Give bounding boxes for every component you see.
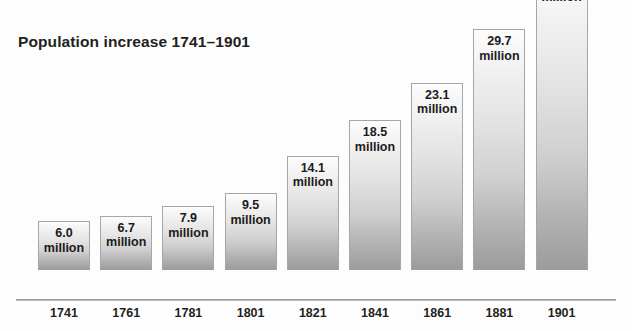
bar-1781[interactable]: 7.9million <box>162 206 214 270</box>
x-axis-label-1861: 1861 <box>411 306 463 320</box>
bar-value-unit: million <box>350 140 400 155</box>
plot-area: 6.0million6.7million7.9million9.5million… <box>0 0 632 301</box>
bar-value-unit: million <box>288 175 338 190</box>
x-axis-label-1781: 1781 <box>162 306 214 320</box>
bar-value-number: 23.1 <box>412 88 462 103</box>
population-bar-chart: Population increase 1741–1901 6.0million… <box>0 0 632 331</box>
bar-value-number: 7.9 <box>163 211 213 226</box>
bar-value-number: 29.7 <box>474 34 524 49</box>
bar-value-number: 6.0 <box>39 226 89 241</box>
bar-value-label-1861: 23.1million <box>412 88 462 118</box>
bar-value-label-1801: 9.5million <box>226 198 276 228</box>
x-axis-label-1821: 1821 <box>287 306 339 320</box>
bar-value-unit: million <box>163 226 213 241</box>
bar-value-number: 6.7 <box>101 221 151 236</box>
bar-value-unit: million <box>474 49 524 64</box>
bar-value-unit: million <box>39 241 89 256</box>
bar-value-unit: million <box>537 0 587 5</box>
bar-value-label-1781: 7.9million <box>163 211 213 241</box>
bar-1761[interactable]: 6.7million <box>100 216 152 270</box>
bar-1881[interactable]: 29.7million <box>473 29 525 270</box>
x-axis-label-1901: 1901 <box>536 306 588 320</box>
bar-1821[interactable]: 14.1million <box>287 156 339 270</box>
bar-1861[interactable]: 23.1million <box>411 83 463 270</box>
x-axis-label-1841: 1841 <box>349 306 401 320</box>
bar-value-label-1881: 29.7million <box>474 34 524 64</box>
bar-value-label-1761: 6.7million <box>101 221 151 251</box>
x-axis-label-1881: 1881 <box>473 306 525 320</box>
bar-value-label-1901: 37.0million <box>537 0 587 5</box>
bar-1741[interactable]: 6.0million <box>38 221 90 270</box>
bar-value-number: 9.5 <box>226 198 276 213</box>
bar-value-unit: million <box>226 213 276 228</box>
bar-1801[interactable]: 9.5million <box>225 193 277 270</box>
bar-value-label-1841: 18.5million <box>350 125 400 155</box>
x-axis-baseline <box>16 299 616 301</box>
bar-1901[interactable]: 37.0million <box>536 0 588 270</box>
x-axis-label-1801: 1801 <box>225 306 277 320</box>
bar-1841[interactable]: 18.5million <box>349 120 401 270</box>
x-axis-label-1741: 1741 <box>38 306 90 320</box>
bar-value-number: 14.1 <box>288 161 338 176</box>
bar-value-unit: million <box>412 102 462 117</box>
bar-value-unit: million <box>101 235 151 250</box>
bar-value-label-1821: 14.1million <box>288 161 338 191</box>
bar-value-number: 18.5 <box>350 125 400 140</box>
x-axis-label-1761: 1761 <box>100 306 152 320</box>
bar-value-label-1741: 6.0million <box>39 226 89 256</box>
